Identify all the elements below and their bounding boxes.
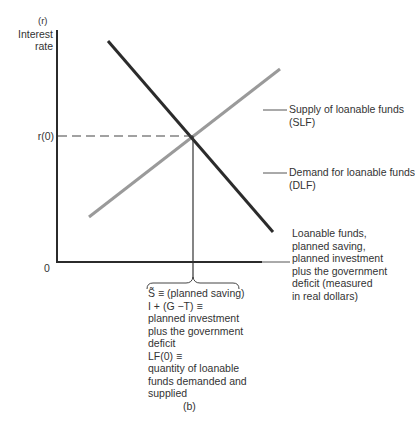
definition-line: plus the government (148, 325, 247, 338)
definition-line: supplied (148, 387, 247, 400)
dlf-label-line2: (DLF) (289, 179, 316, 192)
dlf-label-line1: Demand for loanable funds (289, 166, 415, 179)
y-axis-title-line1: Interest (6, 28, 53, 41)
origin-label: 0 (44, 262, 50, 275)
x-title-line: planned investment (292, 252, 387, 265)
r0-label: r(0) (10, 130, 54, 143)
supply-curve (89, 69, 280, 217)
y-axis-symbol: (r) (38, 15, 48, 28)
x-title-line: Loanable funds, (292, 227, 387, 240)
panel-label: (b) (183, 400, 196, 413)
x-title-line: in real dollars) (292, 290, 387, 303)
definition-line: planned investment (148, 312, 247, 325)
definition-line: quantity of loanable (148, 362, 247, 375)
definition-line: I + (G −T) ≡ (148, 300, 247, 313)
x-axis-title: Loanable funds, planned saving, planned … (292, 227, 387, 302)
x-title-line: deficit (measured (292, 277, 387, 290)
x-title-line: planned saving, (292, 240, 387, 253)
y-axis-title-line2: rate (6, 40, 53, 53)
definition-line: LF(0) ≡ (148, 350, 247, 363)
slf-label-line2: (SLF) (289, 116, 315, 129)
x-title-line: plus the government (292, 265, 387, 278)
definition-line: funds demanded and (148, 375, 247, 388)
brace-definitions: S̃ ≡ (planned saving) I + (G −T) ≡ plann… (148, 287, 247, 400)
definition-line: deficit (148, 337, 247, 350)
slf-label-line1: Supply of loanable funds (289, 103, 404, 116)
definition-line: S̃ ≡ (planned saving) (148, 287, 247, 300)
